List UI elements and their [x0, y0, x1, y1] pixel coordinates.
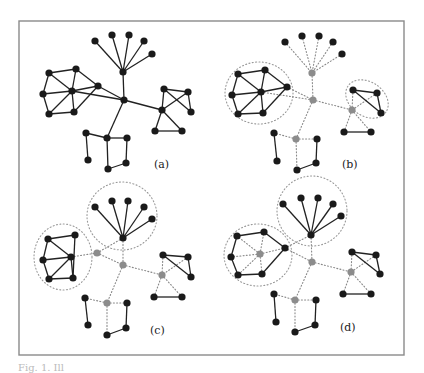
- solid-edge: [232, 92, 261, 95]
- graph-node: [69, 274, 76, 281]
- graph-node: [178, 127, 185, 134]
- graph-node: [315, 32, 322, 39]
- dotted-edge: [351, 255, 376, 272]
- dotted-edge: [313, 100, 352, 110]
- graph-node: [148, 215, 155, 222]
- solid-edge: [262, 248, 285, 274]
- panel-a: (a): [39, 31, 194, 172]
- supernode: [308, 258, 315, 265]
- graph-node: [160, 85, 167, 92]
- solid-edge: [238, 74, 261, 92]
- graph-node: [313, 135, 320, 142]
- figure-canvas: (a)(b)(c)(d): [0, 0, 424, 373]
- panel-d: (d): [224, 176, 384, 336]
- graph-node: [349, 86, 356, 93]
- graph-node: [298, 32, 305, 39]
- graph-node: [311, 321, 318, 328]
- cluster-boundary: [338, 72, 395, 126]
- graph-node: [125, 31, 132, 38]
- dotted-edge: [285, 248, 312, 262]
- panel-label-d: (d): [340, 321, 356, 334]
- graph-node: [187, 108, 194, 115]
- graph-node: [258, 270, 265, 277]
- solid-edge: [162, 92, 188, 110]
- graph-node: [314, 194, 321, 201]
- graph-node: [367, 128, 374, 135]
- graph-node: [140, 203, 147, 210]
- solid-edge: [123, 219, 152, 238]
- solid-edge: [48, 235, 75, 239]
- solid-edge: [48, 239, 71, 257]
- dotted-edge: [295, 262, 312, 300]
- supernode: [292, 135, 299, 142]
- graph-node: [187, 273, 194, 280]
- dotted-edge: [97, 253, 123, 265]
- dotted-edge: [71, 253, 97, 257]
- dotted-edge: [302, 36, 312, 73]
- solid-edge: [238, 92, 261, 114]
- graph-node: [84, 321, 91, 328]
- graph-node: [39, 256, 46, 263]
- solid-edge: [123, 54, 152, 72]
- graph-node: [307, 231, 314, 238]
- dotted-edge: [231, 254, 260, 257]
- graph-node: [373, 89, 380, 96]
- supernode: [348, 106, 355, 113]
- graph-node: [259, 109, 266, 116]
- solid-edge: [238, 274, 262, 275]
- graph-node: [260, 228, 267, 235]
- graph-node: [340, 128, 347, 135]
- graph-node: [158, 106, 165, 113]
- graph-node: [122, 159, 129, 166]
- supernode: [93, 249, 100, 256]
- solid-edge: [85, 298, 88, 325]
- dotted-edge: [97, 238, 123, 253]
- panel-b: (b): [225, 32, 396, 173]
- graph-node: [45, 275, 52, 282]
- graph-node: [227, 253, 234, 260]
- graph-node: [120, 96, 127, 103]
- graph-node: [108, 197, 115, 204]
- graph-node: [184, 88, 191, 95]
- solid-edge: [49, 69, 76, 73]
- supernode: [309, 96, 316, 103]
- graph-node: [184, 253, 191, 260]
- panel-label-a: (a): [154, 158, 169, 171]
- graph-node: [178, 293, 185, 300]
- graph-node: [45, 69, 52, 76]
- graph-node: [279, 200, 286, 207]
- solid-edge: [238, 70, 265, 74]
- graph-node: [119, 68, 126, 75]
- solid-edge: [264, 232, 285, 248]
- solid-edge: [43, 91, 72, 94]
- graph-node: [91, 37, 98, 44]
- supernode: [256, 250, 263, 257]
- graph-node: [261, 66, 268, 73]
- graph-node: [67, 253, 74, 260]
- graph-node: [272, 318, 279, 325]
- supernode: [308, 69, 315, 76]
- supernode: [291, 296, 298, 303]
- graph-node: [81, 294, 88, 301]
- solid-edge: [162, 110, 182, 131]
- solid-edge: [265, 70, 287, 87]
- graph-node: [151, 127, 158, 134]
- graph-node: [372, 251, 379, 258]
- graph-node: [148, 50, 155, 57]
- graph-node: [91, 203, 98, 210]
- graph-node: [312, 159, 319, 166]
- graph-node: [94, 82, 101, 89]
- graph-node: [257, 88, 264, 95]
- panel-label-b: (b): [342, 158, 358, 171]
- graph-node: [84, 156, 91, 163]
- graph-node: [377, 109, 384, 116]
- dotted-edge: [237, 236, 260, 254]
- solid-edge: [76, 69, 98, 86]
- graph-node: [338, 50, 345, 57]
- graph-node: [70, 108, 77, 115]
- graph-node: [122, 324, 129, 331]
- graph-node: [234, 110, 241, 117]
- graph-node: [71, 231, 78, 238]
- solid-edge: [311, 216, 341, 235]
- graph-node: [119, 234, 126, 241]
